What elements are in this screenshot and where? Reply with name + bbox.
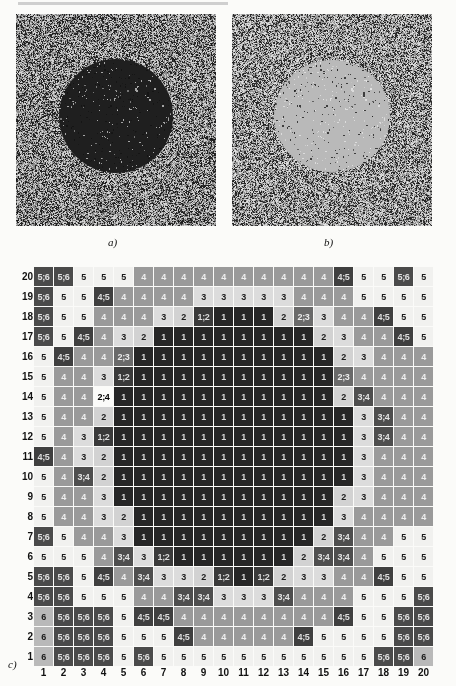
grid-cell: 4 [54,467,73,486]
row-label: 11 [15,447,33,466]
grid-row: 1654;5442;3111111111123444 [15,347,433,366]
grid-cell: 4 [134,267,153,286]
grid-row: 854432111111111134444 [15,507,433,526]
row-label: 4 [15,587,33,606]
grid-cell: 4 [374,487,393,506]
grid-cell: 1 [294,327,313,346]
grid-cell: 5 [414,307,433,326]
grid-cell: 4;5 [174,627,193,646]
grid-cell: 5;6 [34,287,53,306]
grid-cell: 1 [314,467,333,486]
grid-cell: 3 [94,487,113,506]
grid-row: 175;654;54321111111123444;55 [15,327,433,346]
grid-cell: 4 [354,507,373,526]
row-label: 8 [15,507,33,526]
grid-cell: 1 [254,447,273,466]
row-label: 17 [15,327,33,346]
row-label: 12 [15,427,33,446]
grid-cell: 4 [234,627,253,646]
grid-cell: 2 [314,527,333,546]
grid-cell: 1 [254,467,273,486]
grid-cell: 5 [34,367,53,386]
grid-cell: 2 [334,387,353,406]
grid-cell: 5 [154,627,173,646]
grid-cell: 4 [54,367,73,386]
grid-cell: 1 [174,547,193,566]
grid-cell: 2 [274,307,293,326]
grid-cell: 5 [314,647,333,666]
grid-cell: 4 [234,267,253,286]
grid-cell: 5;6 [34,307,53,326]
grid-cell: 1 [254,367,273,386]
grid-cell: 5 [74,587,93,606]
grid-cell: 1 [214,307,233,326]
grid-cell: 1 [254,487,273,506]
grid-cell: 1 [314,367,333,386]
grid-cell: 4 [114,307,133,326]
grid-cell: 1;2 [214,567,233,586]
grid-cell: 4 [94,307,113,326]
grid-cell: 1 [114,487,133,506]
grid-cell: 5;6 [54,607,73,626]
grid-cell: 1 [294,527,313,546]
row-label: 14 [15,387,33,406]
grid-cell: 5 [394,567,413,586]
grid-cell: 4 [374,507,393,526]
grid-cell: 6 [34,627,53,646]
grid-cell: 5 [394,287,413,306]
grid-cell: 5;6 [394,607,413,626]
grid-cell: 4;5 [94,287,113,306]
grid-cell: 1 [154,527,173,546]
grid-row: 1554431;211111111112;34444 [15,367,433,386]
grid-cell: 5 [194,647,213,666]
grid-cell: 5 [354,587,373,606]
grid-cell: 2;3 [294,307,313,326]
panel-b-caption: b) [324,236,333,248]
grid-cell: 4;5 [334,607,353,626]
grid-cell: 5 [314,627,333,646]
grid-row: 75;6544311111111123;44455 [15,527,433,546]
grid-cell: 5 [334,627,353,646]
grid-cell: 4 [354,547,373,566]
grid-cell: 1 [254,307,273,326]
grid-row: 13544211111111111133;444 [15,407,433,426]
grid-cell: 1 [314,347,333,366]
grid-cell: 1 [234,447,253,466]
grid-cell: 1 [134,467,153,486]
grid-cell: 1 [174,347,193,366]
column-label: 14 [294,667,313,686]
grid-cell: 5 [394,587,413,606]
grid-cell: 4 [174,607,193,626]
grid-row: 954431111111111123444 [15,487,433,506]
grid-row: 365;65;65;654;54;5444444444;5555;65;6 [15,607,433,626]
column-label: 1 [34,667,53,686]
grid-cell: 1 [234,307,253,326]
grid-cell: 1 [174,467,193,486]
grid-cell: 1 [314,407,333,426]
grid-cell: 1 [234,567,253,586]
grid-cell: 4 [314,267,333,286]
grid-cell: 5 [54,307,73,326]
grid-cell: 5 [414,547,433,566]
grid-cell: 5;6 [54,627,73,646]
grid-cell: 4 [334,587,353,606]
grid-cell: 4 [354,327,373,346]
grid-cell: 2 [274,567,293,586]
grid-cell: 4 [414,407,433,426]
grid-cell: 1 [274,407,293,426]
grid-cell: 1 [314,507,333,526]
grid-cell: 1 [254,547,273,566]
grid-cell: 3 [74,427,93,446]
grid-cell: 1 [174,527,193,546]
grid-cell: 5;6 [134,647,153,666]
grid-cell: 3 [94,507,113,526]
grid-cell: 5 [74,287,93,306]
grid-cell: 4 [74,487,93,506]
column-label: 4 [94,667,113,686]
grid-cell: 5 [34,547,53,566]
grid-cell: 4;5 [374,567,393,586]
grid-cell: 1 [154,487,173,506]
grid-cell: 4 [394,427,413,446]
grid-cell: 4;5 [374,307,393,326]
panel-a-noise-overlay [16,14,216,226]
